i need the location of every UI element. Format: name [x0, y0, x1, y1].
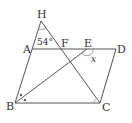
label-E: E — [84, 37, 92, 50]
angle-label-E: x — [91, 54, 96, 64]
segment-DC — [100, 49, 116, 103]
label-A: A — [22, 43, 32, 56]
figure-canvas: H A F E D B C 54° x — [0, 0, 132, 123]
geometry-figure: H A F E D B C 54° x — [0, 0, 132, 123]
label-D: D — [117, 43, 126, 56]
label-H: H — [37, 8, 47, 21]
angle-mark-B-lower — [24, 99, 26, 101]
segment-BH — [15, 21, 41, 103]
label-F: F — [61, 37, 69, 50]
label-C: C — [102, 101, 110, 114]
segment-BE — [15, 49, 87, 103]
angle-label-H: 54° — [37, 37, 53, 47]
angle-mark-B-upper — [20, 94, 22, 96]
angle-arc-H — [39, 28, 47, 30]
label-B: B — [6, 100, 14, 113]
